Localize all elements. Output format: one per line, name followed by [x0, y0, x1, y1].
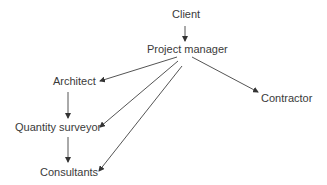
node-consultants: Consultants — [40, 166, 98, 178]
node-architect: Architect — [53, 75, 96, 87]
org-diagram: Client Project manager Architect Quantit… — [0, 0, 327, 185]
node-contractor: Contractor — [261, 92, 312, 104]
node-client: Client — [172, 8, 200, 20]
arrow-project-manager-to-contractor — [192, 57, 258, 92]
node-project-manager: Project manager — [147, 43, 228, 55]
node-quantity-surveyor: Quantity surveyor — [15, 121, 101, 133]
arrow-project-manager-to-architect — [100, 57, 177, 81]
arrow-project-manager-to-consultants — [99, 66, 182, 171]
arrow-project-manager-to-quantity-surveyor — [100, 61, 178, 127]
